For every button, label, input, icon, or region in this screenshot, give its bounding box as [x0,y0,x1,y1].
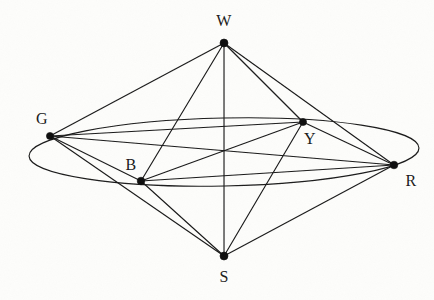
vertex-label-r: R [406,173,417,189]
vertex-dot-s [220,252,228,260]
edge-w-y [224,43,303,122]
vertex-dot-y [299,118,306,125]
vertex-dot-r [390,161,398,169]
edge-r-s [224,165,394,256]
graph-figure: WGYBRS [0,0,434,300]
graph-canvas [0,0,434,300]
vertex-label-w: W [216,13,231,29]
vertex-dot-b [137,177,145,185]
vertex-label-y: Y [304,131,316,147]
edge-g-s [50,136,224,256]
vertex-dot-g [46,132,53,139]
edge-b-s [141,181,224,256]
vertex-dot-w [220,39,228,47]
vertex-label-s: S [219,269,228,285]
edge-g-y [50,122,303,136]
edge-w-g [50,43,224,136]
edge-w-b [141,43,224,181]
vertex-label-g: G [36,111,48,127]
edges-group [50,43,394,256]
vertices-group [46,39,397,260]
vertex-label-b: B [126,157,137,173]
edge-y-s [224,122,303,256]
